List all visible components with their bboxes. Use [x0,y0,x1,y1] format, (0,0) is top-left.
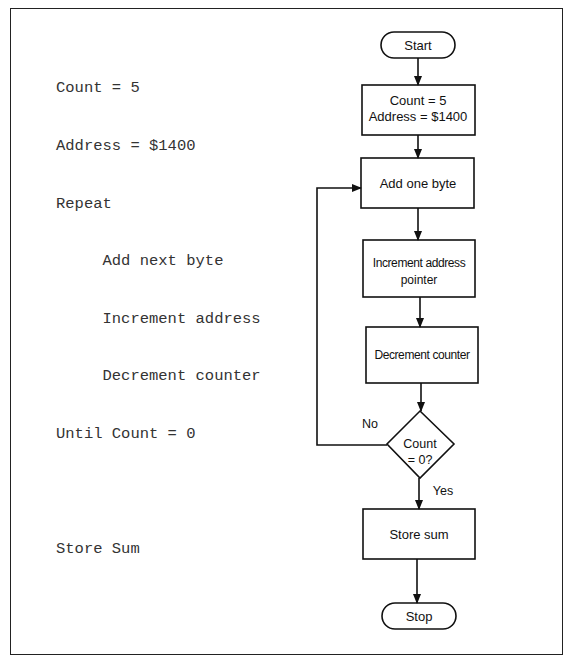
decision-label-1: Count [403,437,437,451]
yes-label: Yes [433,484,453,498]
init-label-2: Address = $1400 [369,109,468,124]
flowchart: Start Count = 5 Address = $1400 Add one … [0,0,569,659]
increment-label-1: Increment address [373,256,466,270]
start-label: Start [404,38,432,53]
decrement-label: Decrement counter [374,348,470,362]
stop-label: Stop [406,609,433,624]
init-label-1: Count = 5 [390,93,447,108]
increment-label-2: pointer [401,273,438,287]
add-byte-label: Add one byte [380,176,457,191]
no-loop-connector [317,188,387,445]
no-label: No [362,417,378,431]
store-sum-label: Store sum [389,527,448,542]
decision-label-2: = 0? [408,453,433,467]
